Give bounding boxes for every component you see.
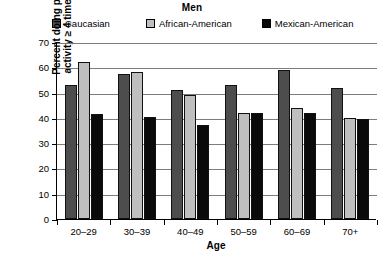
chart-root: Men Caucasian African-American Mexican-A… xyxy=(0,0,384,260)
bar xyxy=(304,113,316,219)
y-axis-tick-label: 20 xyxy=(9,163,49,174)
bar xyxy=(197,125,209,219)
bar xyxy=(184,95,196,219)
y-axis-tick-label: 10 xyxy=(9,189,49,200)
bar xyxy=(225,85,237,219)
x-axis-tick-label: 40–49 xyxy=(160,226,220,237)
bar xyxy=(291,108,303,219)
plot-wrapper: Percent doing physical activity ≥ 4 time… xyxy=(0,0,384,260)
x-axis-title: Age xyxy=(56,240,376,251)
y-axis-tick-label: 0 xyxy=(9,214,49,225)
bar xyxy=(144,117,156,219)
bar xyxy=(357,119,369,219)
bar-group xyxy=(324,42,377,219)
bar-group xyxy=(217,42,270,219)
y-axis-tick-label: 60 xyxy=(9,62,49,73)
x-axis-tick-label: 20–29 xyxy=(54,226,114,237)
x-axis-tick xyxy=(110,220,111,225)
bar xyxy=(251,113,263,219)
bar-group xyxy=(164,42,217,219)
bar-group xyxy=(270,42,323,219)
x-axis-tick xyxy=(377,220,378,225)
x-axis-tick xyxy=(270,220,271,225)
bar xyxy=(171,90,183,219)
y-axis-tick-label: 30 xyxy=(9,138,49,149)
bar xyxy=(331,88,343,219)
bar-group xyxy=(110,42,163,219)
plot-area: Percent doing physical activity ≥ 4 time… xyxy=(56,43,376,220)
y-axis-tick-label: 50 xyxy=(9,88,49,99)
y-axis-tick-label: 40 xyxy=(9,113,49,124)
x-axis-tick-label: 30–39 xyxy=(107,226,167,237)
x-axis-tick xyxy=(57,220,58,225)
x-axis-tick-label: 50–59 xyxy=(214,226,274,237)
y-axis-tick-label: 70 xyxy=(9,37,49,48)
x-axis-tick xyxy=(217,220,218,225)
bar xyxy=(238,113,250,219)
x-axis-tick-label: 70+ xyxy=(320,226,380,237)
bar xyxy=(78,62,90,219)
bar xyxy=(278,70,290,219)
bar xyxy=(91,114,103,219)
bar xyxy=(131,72,143,219)
bar xyxy=(65,85,77,219)
bar-group xyxy=(57,42,110,219)
bar xyxy=(118,74,130,219)
bar xyxy=(344,118,356,219)
x-axis-tick-label: 60–69 xyxy=(267,226,327,237)
x-axis-tick xyxy=(164,220,165,225)
x-axis-tick xyxy=(324,220,325,225)
